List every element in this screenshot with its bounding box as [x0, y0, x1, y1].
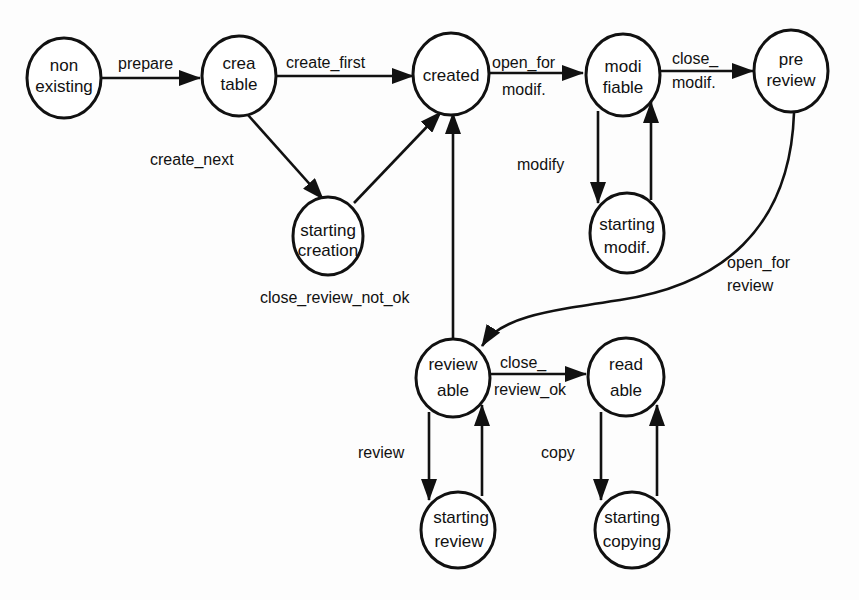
- state-label: read: [609, 355, 643, 374]
- edge-label-close-review-not-ok: close_review_not_ok: [260, 289, 410, 307]
- state-starting-review: starting review: [421, 492, 495, 568]
- edge-create-next: [248, 115, 323, 199]
- state-label: fiable: [603, 78, 644, 97]
- edge-label-close-modif-2: modif.: [672, 74, 716, 91]
- state-label: able: [610, 381, 642, 400]
- state-label: review: [434, 532, 484, 551]
- edge-label-close-review-ok-2: review_ok: [494, 381, 567, 399]
- state-label: created: [423, 66, 480, 85]
- state-starting-copying: starting copying: [595, 492, 669, 568]
- edge-label-modify: modify: [517, 156, 564, 173]
- state-label: starting: [599, 215, 655, 234]
- state-label: able: [437, 381, 469, 400]
- state-non-existing: non existing: [27, 38, 101, 118]
- state-label: crea: [222, 54, 256, 73]
- edge-label-close-review-ok-1: close_: [500, 354, 547, 372]
- state-reviewable: review able: [416, 339, 490, 417]
- state-label: table: [221, 75, 258, 94]
- edge-label-open-for-modif-2: modif.: [502, 81, 546, 98]
- edge-label-close-modif-1: close_: [672, 50, 719, 68]
- state-diagram: non existing crea table created modi fia…: [0, 0, 859, 600]
- state-pre-review: pre review: [754, 30, 828, 112]
- state-label: modi: [605, 57, 642, 76]
- state-label: starting: [300, 221, 356, 240]
- state-readable: read able: [588, 338, 664, 416]
- state-label: existing: [35, 77, 93, 96]
- state-label: modif.: [604, 238, 650, 257]
- edge-label-copy: copy: [541, 444, 575, 461]
- edge-label-prepare: prepare: [118, 55, 173, 72]
- state-label: starting: [604, 508, 660, 527]
- state-label: pre: [779, 50, 804, 69]
- state-label: non: [50, 56, 78, 75]
- state-creatable: crea table: [202, 36, 276, 116]
- state-label: copying: [603, 532, 662, 551]
- state-created: created: [413, 33, 489, 115]
- edge-creation-to-created: [354, 112, 441, 203]
- state-modifiable: modi fiable: [586, 34, 660, 116]
- state-label: review: [428, 355, 478, 374]
- edge-label-open-for-modif-1: open_for: [492, 54, 556, 72]
- edges: [101, 71, 794, 500]
- edge-label-open-for-review-2: review: [727, 277, 774, 294]
- state-label: creation: [298, 241, 358, 260]
- edge-label-create-first: create_first: [286, 54, 366, 72]
- edge-label-create-next: create_next: [150, 151, 234, 169]
- state-label: starting: [433, 508, 489, 527]
- edge-label-open-for-review-1: open_for: [727, 254, 791, 272]
- state-label: review: [766, 71, 816, 90]
- edge-label-review: review: [358, 444, 405, 461]
- state-starting-modif: starting modif.: [590, 193, 664, 273]
- state-starting-creation: starting creation: [293, 197, 363, 275]
